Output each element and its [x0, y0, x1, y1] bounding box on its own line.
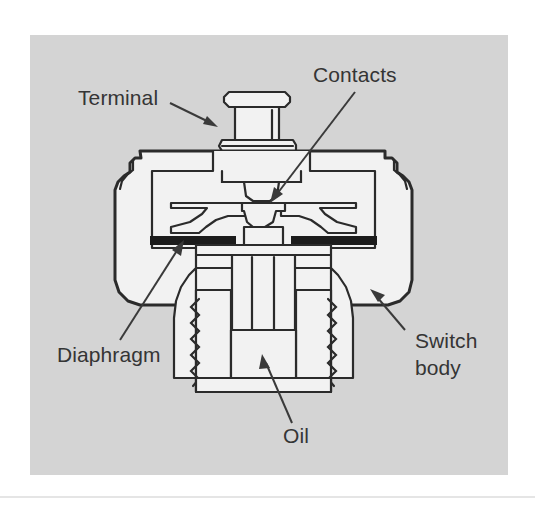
label-terminal: Terminal — [78, 86, 158, 109]
figure-root: Oil pressure switch cutaway diagram — [0, 0, 535, 505]
oil-pressure-switch-diagram: Oil pressure switch cutaway diagram — [0, 0, 535, 505]
label-diaphragm: Diaphragm — [57, 343, 161, 366]
label-switch-body-line2: body — [415, 356, 461, 379]
label-contacts: Contacts — [313, 63, 397, 86]
label-oil: Oil — [283, 424, 309, 447]
label-switch-body-line1: Switch — [415, 329, 477, 352]
plunger-stem — [232, 255, 295, 330]
